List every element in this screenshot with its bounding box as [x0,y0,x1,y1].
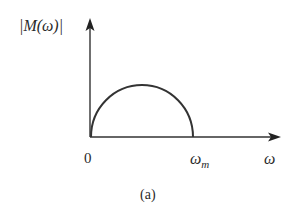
x-axis-label: ω [264,150,275,168]
y-axis-label: |M(ω)| [19,17,63,35]
cutoff-frequency-label: ωm [190,150,209,170]
cutoff-label-base: ω [190,150,201,167]
cutoff-label-subscript: m [201,158,209,170]
figure-caption: (a) [140,187,156,203]
y-axis-label-text: |M(ω)| [19,17,63,34]
semicircle-spectrum-curve [91,85,193,137]
origin-label: 0 [84,150,92,167]
